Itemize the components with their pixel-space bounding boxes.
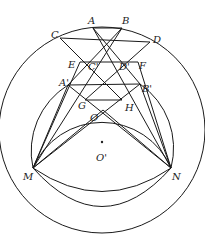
label-G: G xyxy=(78,100,86,111)
label-Dp: D' xyxy=(118,61,130,72)
label-E: E xyxy=(67,59,76,70)
label-A: A xyxy=(87,15,95,26)
label-Ap: A' xyxy=(58,77,69,88)
label-C: C xyxy=(51,29,59,40)
line-CD xyxy=(60,38,150,42)
label-M: M xyxy=(22,171,34,182)
point-Op xyxy=(101,141,103,143)
label-D: D xyxy=(152,34,161,45)
label-O: O xyxy=(90,112,98,123)
line-A-N xyxy=(93,28,171,168)
line-B-Ap xyxy=(68,28,122,85)
label-F: F xyxy=(138,60,147,71)
label-N: N xyxy=(171,171,182,182)
line-ApBp xyxy=(68,84,140,85)
label-Bp: B' xyxy=(141,83,152,94)
lower-arc-1 xyxy=(33,168,171,207)
label-B: B xyxy=(121,15,129,26)
geometry-diagram: A B C D E F C' D' A' B' G H O O' M N xyxy=(0,0,205,237)
label-Cp: C' xyxy=(88,61,98,72)
label-Op: O' xyxy=(96,152,107,163)
line-B-M xyxy=(33,28,122,168)
label-H: H xyxy=(124,102,134,113)
